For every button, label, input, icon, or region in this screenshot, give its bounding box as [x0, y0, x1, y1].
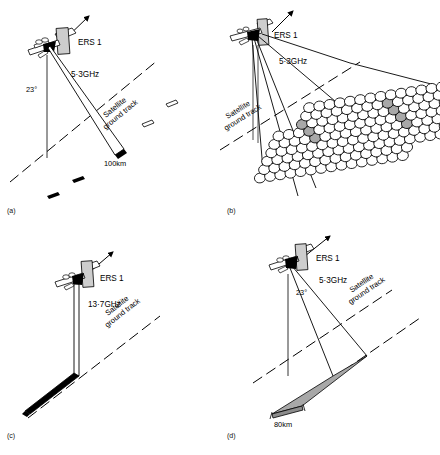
panel-c-altimeter-mode: ERS 1 13·7GHz Satellite ground track (c) — [0, 228, 220, 455]
satellite-label-c: ERS 1 — [100, 274, 124, 283]
satellite-icon — [230, 19, 273, 46]
incidence-angle-label-d: 23° — [296, 288, 307, 297]
frequency-label-b: 5·3GHz — [279, 57, 307, 66]
frequency-label-a: 5·3GHz — [71, 70, 99, 79]
satellite-icon — [269, 244, 314, 273]
panel-b-wind-scatterometer-mode: ERS 1 5·3GHz Satellite ground track (b) — [220, 0, 440, 227]
panel-c-drawing — [0, 228, 220, 455]
resolution-cell-grid — [254, 81, 440, 184]
satellite-label-d: ERS 1 — [316, 254, 340, 263]
imagette-cell — [72, 176, 85, 183]
satellite-label-b: ERS 1 — [274, 31, 298, 40]
altimeter-beam — [74, 284, 79, 376]
ground-track-line — [253, 290, 392, 383]
panel-tag-d: (d) — [227, 432, 236, 439]
panel-tag-b: (b) — [227, 207, 236, 214]
imagette-cell — [47, 192, 60, 199]
swath-width-tick-left — [270, 412, 272, 419]
sar-swath — [272, 356, 367, 414]
flight-direction-arrow — [272, 11, 293, 32]
imagette-cell — [142, 120, 154, 127]
panel-a-wave-mode: ERS 1 5·3GHz 23° 100km Satellite ground … — [0, 0, 220, 227]
panel-tag-c: (c) — [7, 432, 15, 439]
swath-width-label-d: 80km — [274, 420, 292, 429]
panel-tag-a: (a) — [7, 207, 16, 214]
altimeter-footprint-strip — [25, 373, 79, 414]
swath-width-label-a: 100km — [104, 159, 126, 168]
satellite-label-a: ERS 1 — [78, 38, 102, 47]
swath-edge-line-far — [350, 63, 435, 85]
radar-beam — [48, 46, 124, 155]
panel-d-image-mode-sar: ERS 1 5·3GHz 23° 80km Satellite ground t… — [220, 228, 440, 455]
frequency-label-d: 5·3GHz — [319, 276, 347, 285]
imagette-cell — [166, 100, 178, 107]
ground-track-line — [28, 316, 160, 418]
incidence-angle-label-a: 23° — [26, 85, 37, 94]
